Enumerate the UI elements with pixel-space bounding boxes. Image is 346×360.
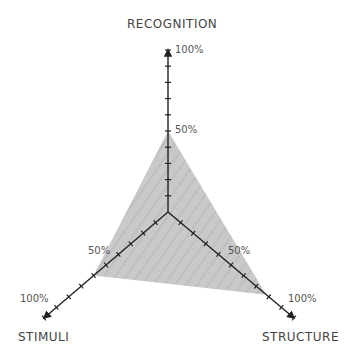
data-area bbox=[94, 131, 267, 295]
structure-50-label: 50% bbox=[228, 245, 250, 256]
axis-title-stimuli: STIMULI bbox=[18, 330, 69, 344]
axis-title-structure: STRUCTURE bbox=[262, 330, 339, 344]
recognition-50-label: 50% bbox=[175, 124, 197, 135]
stimuli-100-label: 100% bbox=[20, 293, 49, 304]
structure-100-label: 100% bbox=[288, 293, 317, 304]
stimuli-50-label: 50% bbox=[88, 245, 110, 256]
axis-title-recognition: RECOGNITION bbox=[127, 17, 217, 31]
radar-chart bbox=[0, 0, 346, 360]
recognition-100-label: 100% bbox=[175, 44, 204, 55]
